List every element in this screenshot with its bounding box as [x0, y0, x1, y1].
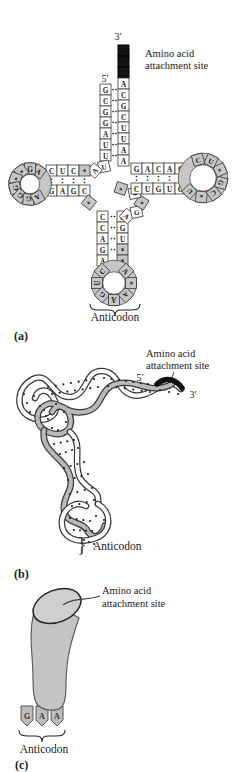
base-dot: [79, 529, 81, 531]
base-dot: [95, 515, 97, 517]
svg-text:C: C: [156, 166, 161, 174]
b-three-prime-label: 3′: [189, 389, 196, 400]
c-attachment-label-line1: Amino acid: [102, 585, 152, 596]
base-box: C: [97, 211, 108, 222]
base-dot: [63, 411, 65, 413]
base-dot: [149, 391, 151, 393]
base-dot: [80, 475, 82, 477]
pair-dot: [115, 133, 117, 135]
base-dot: [124, 387, 126, 389]
pair-dot: [169, 179, 171, 181]
svg-text:A: A: [145, 166, 151, 174]
base-dot: [43, 409, 45, 411]
base-box: C: [118, 111, 129, 122]
base-dot: [66, 391, 68, 393]
base-box: U: [92, 278, 103, 289]
modified-base-box: *: [195, 190, 207, 202]
pair-dot: [112, 122, 114, 124]
pair-dot: [136, 176, 138, 178]
modified-base-box: *: [125, 278, 137, 289]
svg-text:C: C: [100, 225, 105, 233]
svg-text:G: G: [103, 109, 109, 117]
a-attachment-label-line2: attachment site: [145, 60, 209, 71]
modified-base-box: *: [117, 244, 128, 256]
base-dot: [57, 429, 59, 431]
attachment-site-block: [118, 67, 129, 78]
base-dot: [29, 411, 31, 413]
pair-dot: [115, 155, 117, 157]
svg-text:C: C: [71, 168, 76, 176]
base-dot: [97, 386, 99, 388]
pair-dot: [73, 178, 75, 180]
b-attachment-label-line2: attachment site: [146, 360, 210, 371]
pair-dot: [111, 249, 113, 251]
base-dot: [86, 501, 88, 503]
base-dot: [76, 463, 78, 465]
pair-dot: [115, 122, 117, 124]
svg-text:C: C: [121, 114, 126, 122]
base-dot: [91, 487, 93, 489]
base-dot: [74, 389, 76, 391]
base-dot: [93, 499, 95, 501]
base-dot: [118, 379, 120, 381]
a-three-prime-label: 3′: [114, 31, 121, 42]
base-dot: [87, 473, 89, 475]
base-box: C: [118, 89, 129, 100]
base-box: G: [100, 84, 111, 95]
pair-dot: [112, 100, 114, 102]
base-box: A: [142, 163, 153, 174]
base-dot: [76, 518, 78, 520]
pair-dot: [112, 133, 114, 135]
pair-dot: [112, 111, 114, 113]
svg-text:U: U: [120, 236, 126, 244]
svg-text:A: A: [54, 712, 60, 721]
base-box: C: [97, 222, 108, 233]
base-box: U: [57, 165, 68, 176]
base-dot: [89, 520, 91, 522]
base-box: U: [164, 183, 175, 194]
pair-dot: [73, 182, 75, 184]
svg-text:*: *: [121, 248, 125, 256]
base-dot: [147, 383, 149, 385]
svg-text:A: A: [39, 712, 45, 721]
base-box: G: [215, 176, 228, 189]
base-dot: [71, 505, 73, 507]
base-box: G: [117, 222, 128, 233]
simplified-trna-shape: GAA: [21, 582, 86, 726]
anticodon-underbrace-c: [19, 730, 65, 742]
base-dot: [65, 451, 67, 453]
base-dot: [66, 440, 68, 442]
svg-text:G: G: [100, 247, 106, 255]
svg-text:C: C: [100, 214, 105, 222]
base-dot: [141, 390, 143, 392]
base-box: G: [68, 185, 79, 196]
svg-text:G: G: [103, 120, 109, 128]
pair-dot: [62, 182, 64, 184]
base-dot: [115, 386, 117, 388]
base-box: U: [100, 150, 111, 161]
svg-text:U: U: [145, 186, 151, 194]
pair-dot: [136, 179, 138, 181]
svg-text:A: A: [60, 188, 66, 196]
base-box: U: [118, 122, 129, 133]
pair-dot: [112, 144, 114, 146]
base-box: G: [131, 163, 142, 174]
base-box: C: [68, 165, 79, 176]
pair-dot: [114, 227, 116, 229]
svg-text:C: C: [134, 186, 139, 194]
svg-text:C: C: [82, 188, 87, 196]
svg-text:C: C: [121, 92, 126, 100]
pair-dot: [114, 249, 116, 251]
base-dot: [45, 415, 47, 417]
base-dot: [88, 541, 90, 543]
base-dot: [82, 388, 84, 390]
svg-text:U: U: [121, 136, 127, 144]
base-dot: [33, 395, 35, 397]
svg-text:G: G: [103, 87, 109, 95]
base-box: G: [118, 100, 129, 111]
a-five-prime-label: 5′: [101, 73, 108, 84]
svg-text:A: A: [100, 236, 106, 244]
base-box: U: [100, 139, 111, 150]
svg-text:C: C: [103, 98, 108, 106]
svg-text:G: G: [24, 712, 30, 721]
